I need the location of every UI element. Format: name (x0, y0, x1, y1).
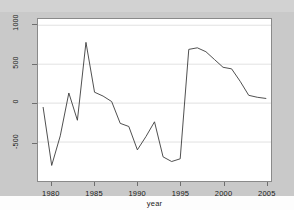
y-axis: -50005001000 (0, 0, 37, 210)
x-tick-mark (180, 182, 181, 186)
figure-root: -50005001000 year 1980198519901995200020… (0, 0, 294, 210)
y-tick-label: 500 (12, 49, 19, 75)
y-tick-label: -500 (12, 128, 19, 154)
x-tick-label: 1990 (128, 189, 146, 198)
data-series-line (43, 42, 266, 165)
y-tick-mark (32, 24, 37, 25)
gridlines (38, 25, 271, 142)
plot-area (37, 18, 272, 182)
x-tick-mark (224, 182, 225, 186)
y-tick-mark (32, 103, 37, 104)
y-tick-label: 0 (12, 89, 19, 115)
y-tick-mark (32, 143, 37, 144)
x-tick-label: 1995 (172, 189, 190, 198)
x-tick-label: 1980 (42, 189, 60, 198)
x-tick-label: 2005 (258, 189, 276, 198)
x-tick-label: 1985 (85, 189, 103, 198)
data-series-group (43, 42, 266, 165)
x-tick-mark (267, 182, 268, 186)
x-tick-mark (137, 182, 138, 186)
y-tick-mark (32, 64, 37, 65)
x-tick-mark (51, 182, 52, 186)
x-axis: year 198019851990199520002005 (0, 182, 294, 210)
scan-top-wash (0, 0, 294, 12)
x-axis-title: year (147, 199, 162, 208)
plot-svg (38, 19, 271, 181)
x-tick-label: 2000 (215, 189, 233, 198)
y-tick-label: 1000 (12, 10, 19, 36)
x-tick-mark (94, 182, 95, 186)
